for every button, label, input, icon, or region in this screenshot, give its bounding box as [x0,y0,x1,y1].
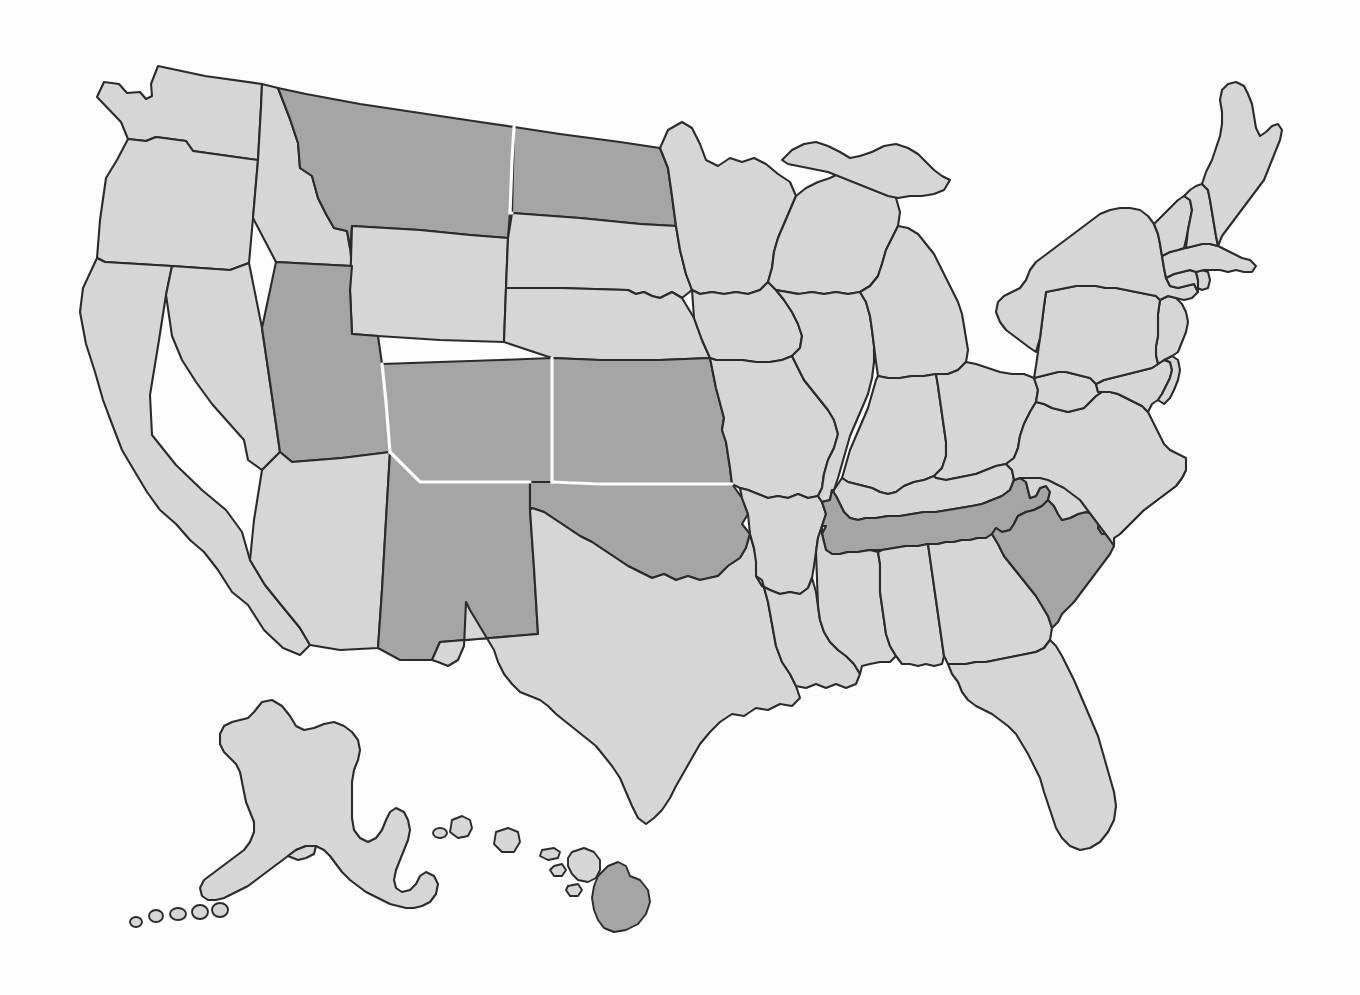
state-HI[interactable] [433,816,650,932]
state-ND[interactable] [512,127,676,226]
hawaii-big-island [592,862,650,932]
state-FL[interactable] [948,640,1116,850]
state-NE[interactable] [504,288,710,360]
us-map-svg [0,0,1360,995]
state-KS[interactable] [552,358,732,484]
state-AK[interactable] [200,700,438,908]
state-CO[interactable] [382,358,552,482]
state-WY[interactable] [350,226,508,342]
state-RI[interactable] [1196,270,1210,290]
hawaii-oahu [494,828,520,852]
state-OR[interactable] [97,137,258,270]
state-NJ[interactable] [1156,296,1188,364]
hawaii-kauai [450,816,472,838]
aleutian-island-3 [170,908,186,920]
aleutian-island-4 [192,905,208,919]
hawaii-maui [568,848,600,882]
aleutian-island-2 [149,910,163,922]
hawaii-kahoolawe [566,884,582,896]
us-map-container [0,0,1360,995]
state-PA[interactable] [1034,286,1160,384]
aleutian-island-5 [212,903,228,917]
state-ME[interactable] [1202,82,1282,246]
state-SD[interactable] [506,213,692,298]
hawaii-molokai [540,848,560,860]
state-NV[interactable] [166,263,280,470]
hawaii-niihau [433,828,447,838]
aleutian-island-1 [130,917,142,927]
hawaii-lanai [550,864,566,876]
